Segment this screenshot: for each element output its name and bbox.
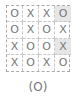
- tic-tac-toe-grid: O X X O O X O X X O O X X O X O: [6, 5, 70, 72]
- grid-cell-highlighted: X: [55, 39, 71, 55]
- grid-cell: X: [23, 22, 39, 38]
- grid-cell: O: [39, 22, 55, 38]
- grid-cell: O: [39, 39, 55, 55]
- grid-cell: O: [23, 39, 39, 55]
- grid-cell: X: [7, 55, 23, 71]
- grid-cell: O: [23, 55, 39, 71]
- grid-cell: O: [55, 55, 71, 71]
- grid-cell: X: [39, 55, 55, 71]
- grid-cell: X: [23, 6, 39, 22]
- grid-cell: X: [39, 6, 55, 22]
- grid-cell: O: [7, 22, 23, 38]
- grid-cell: X: [55, 22, 71, 38]
- grid-cell: X: [7, 39, 23, 55]
- grid-cell: O: [7, 6, 23, 22]
- grid-cell-highlighted: O: [55, 6, 71, 22]
- caption-label: (O): [0, 80, 76, 94]
